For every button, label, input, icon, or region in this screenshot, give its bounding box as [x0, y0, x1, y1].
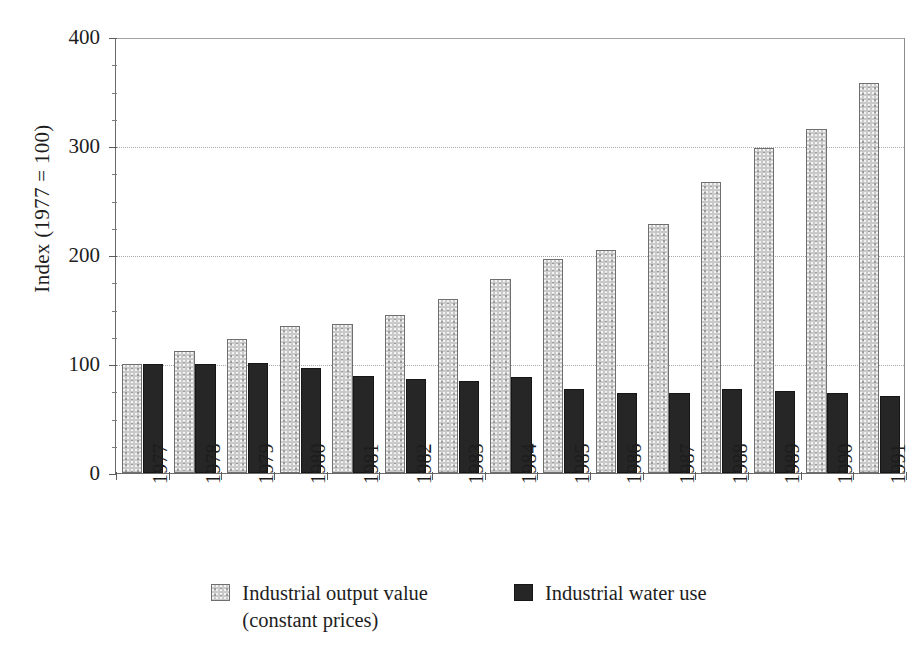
x-axis-label-1991: 1991 — [887, 424, 910, 484]
legend-item-output[interactable]: Industrial output value(constant prices) — [211, 580, 428, 634]
y-minor-tick-275 — [112, 174, 117, 175]
x-axis-label-1988: 1988 — [729, 424, 752, 484]
bar-output-1978 — [174, 351, 195, 473]
legend-label: Industrial output value(constant prices) — [242, 580, 428, 634]
y-tick-300 — [109, 147, 117, 148]
y-minor-tick-150 — [112, 311, 117, 312]
y-minor-tick-350 — [112, 93, 117, 94]
plot-area: 0100200300400 — [115, 38, 905, 474]
bar-output-1985 — [543, 259, 564, 473]
x-axis-label-1985: 1985 — [571, 424, 594, 484]
legend-item-water[interactable]: Industrial water use — [514, 580, 707, 607]
gridline-400 — [116, 38, 904, 39]
dark-solid-swatch — [514, 584, 533, 601]
bar-output-1990 — [806, 129, 827, 473]
bar-output-1991 — [859, 83, 880, 473]
x-axis-label-1990: 1990 — [834, 424, 857, 484]
x-axis-label-1983: 1983 — [465, 424, 488, 484]
x-axis-label-1978: 1978 — [202, 424, 225, 484]
y-minor-tick-250 — [112, 202, 117, 203]
y-tick-100 — [109, 365, 117, 366]
y-tick-400 — [109, 38, 117, 39]
x-axis-label-1987: 1987 — [676, 424, 699, 484]
bar-output-1987 — [648, 224, 669, 473]
bar-output-1988 — [701, 182, 722, 473]
bar-output-1986 — [596, 250, 617, 473]
bar-output-1979 — [227, 339, 248, 473]
light-dotted-swatch — [211, 584, 230, 601]
y-minor-tick-225 — [112, 229, 117, 230]
bar-output-1981 — [332, 324, 353, 473]
legend-label: Industrial water use — [545, 580, 707, 607]
x-axis-label-1980: 1980 — [307, 424, 330, 484]
legend-label-line2: (constant prices) — [242, 607, 428, 634]
bar-output-1982 — [385, 315, 406, 473]
y-tick-label-200: 200 — [30, 245, 100, 266]
y-minor-tick-175 — [112, 283, 117, 284]
y-minor-tick-325 — [112, 120, 117, 121]
x-axis-label-1981: 1981 — [360, 424, 383, 484]
y-minor-tick-125 — [112, 338, 117, 339]
bar-output-1977 — [122, 364, 143, 473]
chart-legend: Industrial output value(constant prices)… — [0, 580, 918, 634]
y-tick-label-300: 300 — [30, 136, 100, 157]
x-axis-label-1984: 1984 — [518, 424, 541, 484]
y-tick-label-100: 100 — [30, 354, 100, 375]
y-minor-tick-25 — [112, 447, 117, 448]
x-tick-1977 — [116, 472, 117, 480]
y-minor-tick-50 — [112, 420, 117, 421]
y-tick-200 — [109, 256, 117, 257]
x-axis-label-1986: 1986 — [623, 424, 646, 484]
gridline-200 — [116, 256, 904, 257]
x-axis-label-1982: 1982 — [413, 424, 436, 484]
x-axis-label-1979: 1979 — [255, 424, 278, 484]
y-minor-tick-75 — [112, 392, 117, 393]
y-axis-title: Index (1977 = 100) — [30, 79, 55, 339]
x-axis-label-1977: 1977 — [149, 424, 172, 484]
x-axis-label-1989: 1989 — [781, 424, 804, 484]
gridline-300 — [116, 147, 904, 148]
bar-output-1989 — [754, 148, 775, 473]
y-tick-label-400: 400 — [30, 27, 100, 48]
bar-output-1980 — [280, 326, 301, 473]
y-minor-tick-375 — [112, 65, 117, 66]
bar-output-1984 — [490, 279, 511, 473]
y-tick-label-0: 0 — [30, 463, 100, 484]
chart-figure: Index (1977 = 100) 0100200300400 1977197… — [0, 0, 918, 649]
bar-output-1983 — [438, 299, 459, 473]
